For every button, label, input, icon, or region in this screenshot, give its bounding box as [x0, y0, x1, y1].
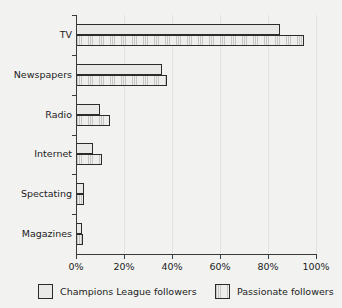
- x-tick: [268, 255, 269, 259]
- y-axis-line: [76, 15, 77, 255]
- category-label: TV: [4, 30, 72, 40]
- x-tick-label: 20%: [113, 261, 134, 272]
- category-labels: TVNewspapersRadioInternetSpectatingMagaz…: [0, 0, 72, 240]
- x-tick: [172, 255, 173, 259]
- gridline: [268, 15, 269, 254]
- gridline: [316, 15, 317, 254]
- category-label: Newspapers: [4, 70, 72, 80]
- bar: [76, 194, 84, 205]
- chart-legend: Champions League followersPassionate fol…: [0, 280, 342, 306]
- bar: [76, 24, 280, 35]
- legend-label: Passionate followers: [237, 286, 334, 297]
- bar: [76, 234, 83, 245]
- x-tick: [76, 255, 77, 259]
- bar: [76, 64, 162, 75]
- grouped-bar-chart: TVNewspapersRadioInternetSpectatingMagaz…: [0, 0, 342, 308]
- x-tick-label: 0%: [68, 261, 83, 272]
- gridline: [172, 15, 173, 254]
- bar: [76, 115, 110, 126]
- bar: [76, 154, 102, 165]
- x-tick-label: 80%: [257, 261, 278, 272]
- x-tick: [316, 255, 317, 259]
- x-tick: [124, 255, 125, 259]
- legend-item[interactable]: Passionate followers: [215, 280, 334, 302]
- legend-item[interactable]: Champions League followers: [38, 280, 197, 302]
- bar: [76, 75, 167, 86]
- bar: [76, 104, 100, 115]
- legend-label: Champions League followers: [60, 286, 197, 297]
- bar: [76, 183, 84, 194]
- x-tick-label: 100%: [302, 261, 329, 272]
- x-tick-label: 60%: [209, 261, 230, 272]
- bar: [76, 143, 93, 154]
- x-tick: [220, 255, 221, 259]
- bar: [76, 35, 304, 46]
- x-tick-label: 40%: [161, 261, 182, 272]
- category-label: Spectating: [4, 189, 72, 199]
- plot-area: TVNewspapersRadioInternetSpectatingMagaz…: [0, 0, 342, 270]
- gridline: [220, 15, 221, 254]
- legend-swatch: [215, 284, 230, 299]
- gridline: [124, 15, 125, 254]
- category-label: Magazines: [4, 229, 72, 239]
- legend-swatch: [38, 284, 53, 299]
- category-label: Internet: [4, 149, 72, 159]
- x-axis-line: [76, 254, 317, 255]
- category-label: Radio: [4, 110, 72, 120]
